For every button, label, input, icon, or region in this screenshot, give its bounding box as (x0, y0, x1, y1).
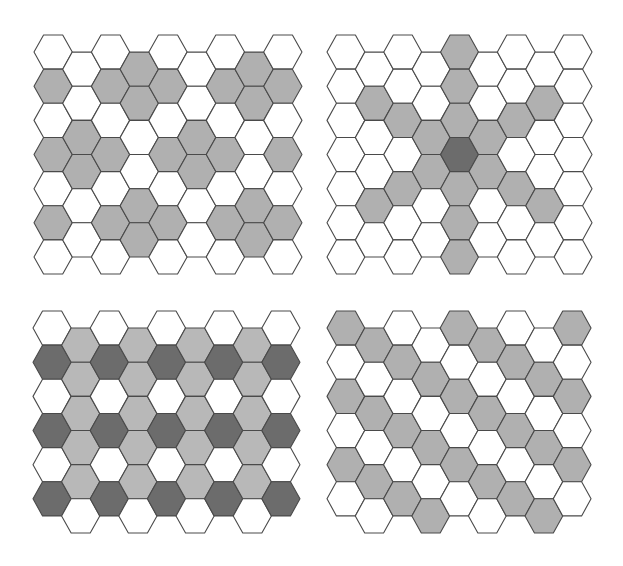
grid-top-left (34, 35, 302, 274)
grid-bottom-left (33, 311, 300, 533)
hex-grid-diagram (0, 0, 623, 566)
grid-top-right (327, 35, 592, 274)
grid-bottom-right (327, 311, 591, 533)
